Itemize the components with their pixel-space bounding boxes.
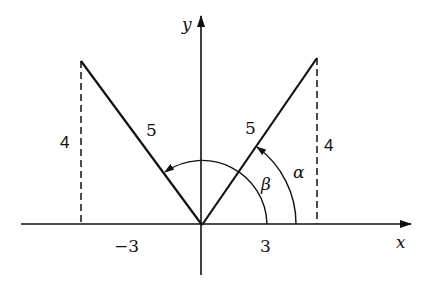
beta-arc [165,160,267,224]
left-height-label: 4 [60,133,69,152]
right-segment [202,58,317,225]
y-axis-label: y [181,14,192,34]
right-height-label: 4 [324,136,333,155]
tick-label-three: 3 [260,236,271,256]
alpha-label: α [293,162,305,182]
left-length-label: 5 [146,120,157,140]
left-segment [81,61,202,225]
right-length-label: 5 [245,118,256,138]
diagram-canvas: y x 4 4 5 5 α β −3 3 [0,0,423,281]
beta-label: β [260,174,271,194]
x-axis-label: x [396,232,406,252]
tick-label-neg-three: −3 [114,236,139,256]
